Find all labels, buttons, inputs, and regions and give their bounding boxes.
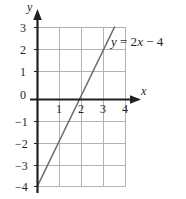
plot-canvas (0, 0, 186, 199)
x-axis-arrowhead (130, 95, 141, 104)
y-tick-label-neg1: −1 (15, 116, 28, 128)
y-tick-label-neg2: −2 (15, 138, 28, 150)
equation-variable: x (137, 34, 143, 49)
y-tick-label-2: 2 (20, 44, 26, 56)
y-tick-label-3: 3 (20, 22, 26, 34)
x-tick-label-3: 3 (100, 103, 106, 115)
equation-lhs: y (111, 34, 117, 49)
y-axis-label: y (27, 1, 32, 13)
x-tick-label-1: 1 (56, 103, 62, 115)
line-graph-figure: 3 2 1 0 −1 −2 −3 −4 1 2 3 4 y x y=2x−4 (0, 0, 186, 199)
y-tick-label-0: 0 (20, 89, 26, 101)
equation-minus: − (146, 34, 154, 49)
x-tick-label-2: 2 (78, 103, 84, 115)
equation-annotation: y=2x−4 (111, 34, 163, 50)
y-tick-label-neg3: −3 (15, 160, 28, 172)
x-axis-label: x (141, 85, 146, 97)
equation-equals: = (120, 34, 128, 49)
y-tick-label-neg4: −4 (15, 181, 28, 193)
equation-constant: 4 (157, 34, 164, 49)
x-tick-label-4: 4 (122, 103, 128, 115)
y-tick-label-1: 1 (20, 66, 26, 78)
y-axis-arrowhead (33, 9, 42, 20)
